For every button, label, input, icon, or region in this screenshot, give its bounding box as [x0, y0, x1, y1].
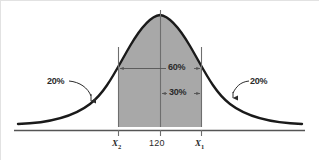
annotation-right-tail-percent: 20% [250, 77, 267, 86]
annotation-half-percent: 30% [169, 88, 186, 97]
axis-label-x2: X2 [112, 139, 121, 150]
axis-label-mean: 120 [149, 139, 165, 148]
normal-distribution-figure: 20% 20% 60% 30% X2 X1 120 [0, 0, 319, 160]
annotation-left-tail-percent: 20% [47, 77, 64, 86]
axis-label-x2-subscript: 2 [118, 143, 121, 150]
axis-label-x1-subscript: 1 [201, 143, 204, 150]
leader-right-tail [233, 81, 249, 98]
axis-label-x1: X1 [195, 139, 204, 150]
leader-left-tail [69, 81, 91, 101]
annotation-middle-percent: 60% [168, 63, 185, 72]
